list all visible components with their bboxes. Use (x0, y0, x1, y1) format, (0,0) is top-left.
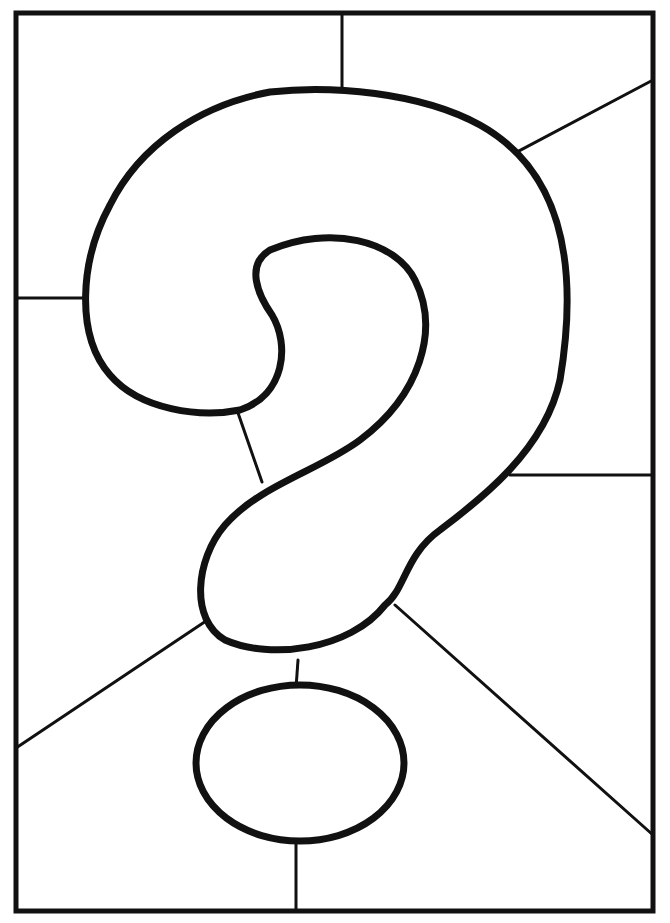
question-mark-artwork (0, 0, 670, 923)
question-mark-hook (86, 90, 568, 650)
question-mark-dot (196, 685, 404, 841)
